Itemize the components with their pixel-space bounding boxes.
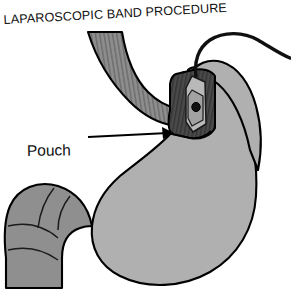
esophagus: [88, 32, 176, 126]
duodenum: [5, 184, 92, 288]
pouch-leader-arrow: [88, 127, 174, 139]
laparoscopic-band-figure: LAPAROSCOPIC BAND PROCEDURE Pouch: [0, 0, 291, 292]
pouch-label: Pouch: [27, 141, 71, 160]
adjustable-gastric-band: [169, 69, 215, 138]
